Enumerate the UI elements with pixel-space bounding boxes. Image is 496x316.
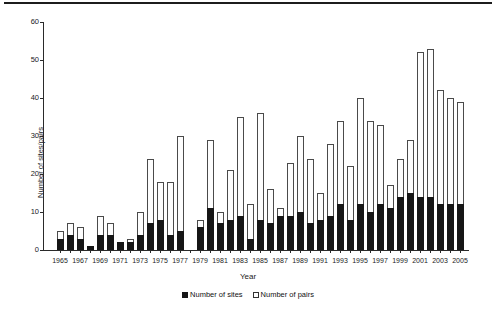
x-axis-title: Year: [0, 272, 496, 281]
bar-1982-sites: [227, 220, 234, 250]
bar-1966-sites: [67, 235, 74, 250]
x-tick: [420, 250, 421, 253]
top-rule: [4, 2, 492, 4]
bar-1990-sites: [307, 223, 314, 250]
x-tick: [100, 250, 101, 253]
bar-2002-sites: [427, 197, 434, 250]
y-tick: [40, 98, 44, 99]
x-tick: [200, 250, 201, 253]
bar-1997-sites: [377, 204, 384, 250]
bar-1991-sites: [317, 220, 324, 250]
legend-sites-label: Number of sites: [190, 290, 243, 299]
x-tick: [370, 250, 371, 253]
x-tick: [460, 250, 461, 253]
bar-1995-sites: [357, 204, 364, 250]
x-tick: [180, 250, 181, 253]
bar-1974-sites: [147, 223, 154, 250]
bar-1975-sites: [157, 220, 164, 250]
legend-item-pairs: Number of pairs: [253, 290, 314, 299]
x-tick: [410, 250, 411, 253]
x-tick: [360, 250, 361, 253]
x-tick: [60, 250, 61, 253]
bar-2001-sites: [417, 197, 424, 250]
x-tick: [450, 250, 451, 253]
bar-1993-sites: [337, 204, 344, 250]
y-tick-label: 40: [19, 94, 39, 102]
bar-1994-sites: [347, 220, 354, 250]
bar-1984-sites: [247, 239, 254, 250]
bar-2005-sites: [457, 204, 464, 250]
x-tick: [350, 250, 351, 253]
bar-1968-sites: [87, 246, 94, 250]
bar-1989-sites: [297, 212, 304, 250]
x-tick: [390, 250, 391, 253]
y-tick-label: 30: [19, 132, 39, 140]
x-tick-label: 2005: [447, 257, 473, 264]
x-tick: [210, 250, 211, 253]
x-tick: [380, 250, 381, 253]
bar-1988-sites: [287, 216, 294, 250]
bar-1987-sites: [277, 216, 284, 250]
x-tick: [160, 250, 161, 253]
x-tick: [280, 250, 281, 253]
x-tick: [260, 250, 261, 253]
bar-1967-sites: [77, 239, 84, 250]
y-tick: [40, 22, 44, 23]
bar-2003-sites: [437, 204, 444, 250]
x-tick: [440, 250, 441, 253]
y-tick: [40, 60, 44, 61]
x-tick: [270, 250, 271, 253]
bar-1965-sites: [57, 239, 64, 250]
bar-1999-sites: [397, 197, 404, 250]
bar-1998-sites: [387, 208, 394, 250]
bar-2000-sites: [407, 193, 414, 250]
bar-1972-sites: [127, 242, 134, 250]
x-tick: [250, 250, 251, 253]
x-tick: [240, 250, 241, 253]
bar-1981-sites: [217, 223, 224, 250]
x-tick: [140, 250, 141, 253]
bar-1983-sites: [237, 216, 244, 250]
x-tick: [70, 250, 71, 253]
bar-1985-sites: [257, 220, 264, 250]
legend-item-sites: Number of sites: [182, 290, 243, 299]
bar-1996-sites: [367, 212, 374, 250]
y-tick: [40, 174, 44, 175]
x-tick: [400, 250, 401, 253]
y-tick: [40, 136, 44, 137]
x-tick: [130, 250, 131, 253]
x-tick: [90, 250, 91, 253]
legend-pairs-label: Number of pairs: [261, 290, 314, 299]
pairs-swatch-icon: [253, 292, 259, 298]
bar-1992-sites: [327, 216, 334, 250]
x-tick: [80, 250, 81, 253]
y-tick-label: 10: [19, 208, 39, 216]
y-tick-label: 60: [19, 18, 39, 26]
bar-1977-sites: [177, 231, 184, 250]
figure: Number of sites/pairs 010203040506019651…: [0, 0, 496, 316]
bar-2004-sites: [447, 204, 454, 250]
bar-1971-sites: [117, 242, 124, 250]
bar-1980-sites: [207, 208, 214, 250]
x-tick: [170, 250, 171, 253]
bar-1973-sites: [137, 235, 144, 250]
x-tick: [110, 250, 111, 253]
x-tick: [320, 250, 321, 253]
plot-area: Number of sites/pairs 010203040506019651…: [43, 22, 469, 251]
bar-1986-sites: [267, 223, 274, 250]
bar-1970-sites: [107, 235, 114, 250]
y-tick: [40, 250, 44, 251]
x-tick: [290, 250, 291, 253]
y-tick-label: 0: [19, 246, 39, 254]
x-tick: [330, 250, 331, 253]
y-tick-label: 20: [19, 170, 39, 178]
y-tick: [40, 212, 44, 213]
x-tick: [120, 250, 121, 253]
y-tick-label: 50: [19, 56, 39, 64]
x-tick: [150, 250, 151, 253]
x-tick: [190, 250, 191, 253]
bar-1979-sites: [197, 227, 204, 250]
x-tick: [300, 250, 301, 253]
x-tick: [230, 250, 231, 253]
x-tick: [340, 250, 341, 253]
